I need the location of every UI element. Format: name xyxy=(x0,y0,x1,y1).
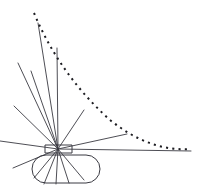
ray-down-right-b xyxy=(58,149,69,183)
ray-upper-left-b xyxy=(31,71,58,149)
ray-right-long xyxy=(58,149,191,151)
rays-group xyxy=(0,23,191,184)
ray-upper-right xyxy=(58,110,84,149)
figure-canvas xyxy=(0,0,204,194)
ray-left-mid xyxy=(14,106,58,149)
ray-up-vertical xyxy=(57,48,58,149)
ray-right-slight xyxy=(58,134,127,149)
figure-root xyxy=(0,0,204,194)
ray-upper-left-a xyxy=(18,63,58,149)
ray-down-right-a xyxy=(58,149,84,180)
